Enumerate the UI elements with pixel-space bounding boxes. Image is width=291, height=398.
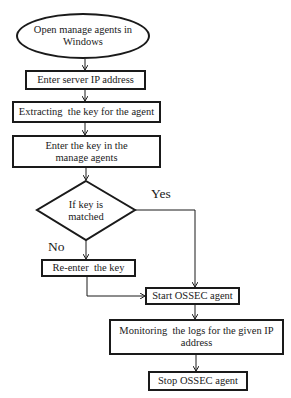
no-label: No xyxy=(48,240,65,254)
reenter-node: Re-enter the key xyxy=(41,259,136,277)
stop-ossec-node-text: Stop OSSEC agent xyxy=(158,375,238,387)
enter-key-node-text: Enter the key in the manage agents xyxy=(36,140,137,164)
decision-text: If key is matched xyxy=(56,199,116,223)
extract-key-node-text: Extracting the key for the agent xyxy=(19,106,154,118)
stop-ossec-node: Stop OSSEC agent xyxy=(148,371,248,391)
reenter-node-text: Re-enter the key xyxy=(52,262,124,274)
monitor-node: Monitoring the logs for the given IP add… xyxy=(109,319,284,355)
enter-ip-node: Enter server IP address xyxy=(25,70,146,90)
enter-key-node: Enter the key in the manage agents xyxy=(12,135,161,168)
start-ossec-node-text: Start OSSEC agent xyxy=(152,290,233,302)
start-node-text: Open manage agents in Windows xyxy=(32,24,134,48)
monitor-node-text: Monitoring the logs for the given IP add… xyxy=(119,325,274,349)
arrow-reenter-to-start-ossec xyxy=(87,276,145,296)
start-ossec-node: Start OSSEC agent xyxy=(145,287,240,305)
extract-key-node: Extracting the key for the agent xyxy=(12,101,161,123)
start-node: Open manage agents in Windows xyxy=(16,13,150,59)
arrow-yes-to-start-ossec xyxy=(135,210,195,287)
enter-ip-node-text: Enter server IP address xyxy=(37,74,134,86)
yes-label: Yes xyxy=(151,187,171,201)
